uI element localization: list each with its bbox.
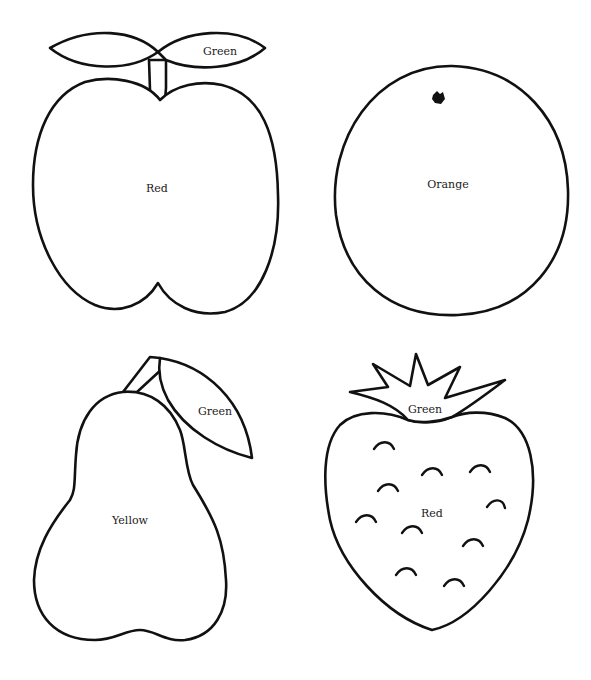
- strawberry-crown-label: Green: [408, 403, 442, 416]
- apple-body: [33, 79, 278, 313]
- apple: Green Red: [33, 33, 278, 314]
- strawberry-body-label: Red: [421, 507, 443, 520]
- apple-body-label: Red: [146, 182, 168, 195]
- pear-body-label: Yellow: [111, 514, 148, 527]
- apple-left-leaf: [50, 33, 158, 67]
- orange-body-label: Orange: [427, 178, 468, 191]
- strawberry: Green Red: [325, 354, 533, 630]
- orange: Orange: [335, 66, 568, 315]
- pear: Green Yellow: [34, 357, 252, 640]
- pear-stem: [123, 357, 163, 392]
- pear-leaf-label: Green: [198, 405, 232, 418]
- fruit-coloring-page: Green Red Orange Green Yellow Green Red: [0, 0, 591, 680]
- apple-leaf-label: Green: [203, 45, 237, 58]
